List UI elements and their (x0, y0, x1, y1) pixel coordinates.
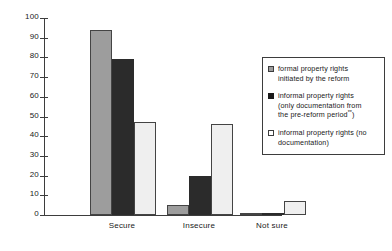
legend-line-2: initiated by the reform (278, 74, 349, 83)
gray-swatch-icon (268, 66, 274, 72)
legend-line-1: informal property rights (no (278, 128, 367, 137)
white-swatch-icon (268, 130, 274, 136)
y-tick-label: 90 (30, 32, 39, 42)
bar (167, 205, 189, 215)
x-axis-category-label: Not sure (232, 221, 312, 231)
legend-item-informal-with-documentation: informal property rights (only documenta… (268, 91, 379, 120)
bar-groups (45, 18, 282, 215)
bar-chart: 0102030405060708090100 SecureInsecureNot… (0, 0, 392, 251)
legend-item-label: informal property rights (no documentati… (278, 128, 367, 147)
bar (112, 59, 134, 215)
legend-line-3: the pre-reform period (278, 110, 348, 119)
legend-line-3-tail: ) (352, 110, 355, 119)
y-tick-mark (40, 215, 48, 216)
bar (189, 176, 211, 215)
bar (90, 30, 112, 215)
legend-item-label: formal property rights initiated by the … (278, 64, 349, 83)
legend-line-1: formal property rights (278, 64, 348, 73)
y-tick-label: 50 (30, 111, 39, 121)
x-axis-category-label: Secure (82, 221, 162, 231)
y-tick-label: 40 (30, 130, 39, 140)
y-tick-label: 0 (34, 209, 39, 219)
bar (134, 122, 156, 215)
y-tick-label: 10 (30, 189, 39, 199)
y-tick-label: 30 (30, 150, 39, 160)
bar-group (90, 18, 156, 215)
y-tick-label: 70 (30, 71, 39, 81)
bar (284, 201, 306, 215)
bar (240, 213, 262, 215)
black-swatch-icon (268, 93, 274, 99)
y-tick-label: 20 (30, 170, 39, 180)
y-tick-label: 100 (25, 12, 39, 22)
bar-group (167, 18, 233, 215)
legend-line-2: documentation) (278, 138, 329, 147)
bar (262, 213, 284, 215)
bar (211, 124, 233, 215)
y-tick-label: 60 (30, 91, 39, 101)
x-axis-line (44, 215, 282, 216)
y-tick: 0 (44, 215, 52, 216)
plot-area: 0102030405060708090100 SecureInsecureNot… (44, 18, 282, 215)
x-axis-category-label: Insecure (159, 221, 239, 231)
y-tick-label: 80 (30, 51, 39, 61)
legend-line-1: informal property rights (278, 91, 354, 100)
legend-item-label: informal property rights (only documenta… (278, 91, 362, 120)
legend-item-informal-no-documentation: informal property rights (no documentati… (268, 128, 379, 147)
legend-item-formal-property-rights: formal property rights initiated by the … (268, 64, 379, 83)
chart-legend: formal property rights initiated by the … (262, 57, 385, 155)
